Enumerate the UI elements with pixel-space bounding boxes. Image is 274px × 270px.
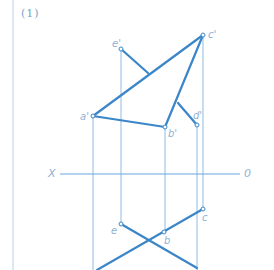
label-e: e bbox=[111, 226, 117, 236]
diagram-canvas bbox=[0, 0, 274, 270]
figure-title: (1) bbox=[21, 7, 40, 20]
point-markers bbox=[91, 33, 205, 234]
point-b-prime bbox=[163, 125, 167, 129]
line-e-down bbox=[121, 224, 197, 268]
point-a-prime bbox=[91, 114, 95, 118]
projection-lines bbox=[93, 35, 203, 270]
point-e bbox=[119, 222, 123, 226]
projection-diagram: (1) e' c' a' b' d' X 0 e b c bbox=[0, 0, 274, 270]
label-a-prime: a' bbox=[80, 112, 89, 122]
axis-label-o: 0 bbox=[244, 169, 251, 179]
point-c bbox=[201, 207, 205, 211]
point-c-prime bbox=[201, 33, 205, 37]
point-d-prime bbox=[195, 123, 199, 127]
label-c-prime: c' bbox=[208, 30, 216, 40]
label-b-prime: b' bbox=[168, 129, 177, 139]
label-c: c bbox=[202, 213, 208, 223]
front-view-lines bbox=[93, 35, 203, 127]
axis-label-x: X bbox=[48, 169, 56, 179]
point-b bbox=[162, 230, 166, 234]
line-a-prime-b-prime bbox=[93, 116, 165, 127]
top-view-lines bbox=[97, 209, 203, 270]
line-c-down bbox=[97, 209, 203, 270]
label-e-prime: e' bbox=[112, 39, 121, 49]
label-d-prime: d' bbox=[193, 111, 202, 121]
label-b: b bbox=[164, 236, 170, 246]
line-e-prime-branch bbox=[121, 49, 148, 73]
